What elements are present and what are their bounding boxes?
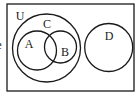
label-d: D xyxy=(105,30,114,42)
label-b: B xyxy=(61,46,69,58)
label-a: A xyxy=(25,38,34,50)
label-u: U xyxy=(16,10,25,22)
set-a-circle xyxy=(18,31,57,70)
label-c: C xyxy=(43,18,51,30)
